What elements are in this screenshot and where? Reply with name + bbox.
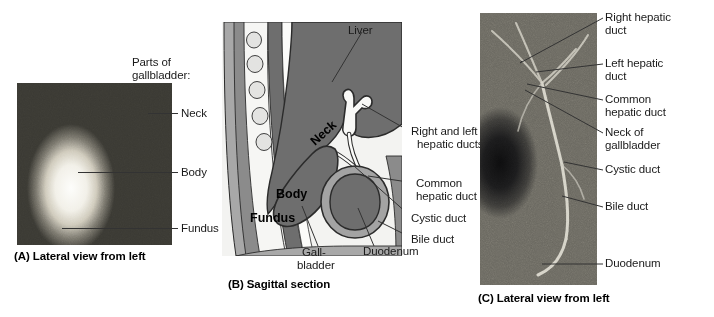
panel-b-inner-label-body: Body xyxy=(276,187,307,201)
panel-b-label-duodenum: Duodenum xyxy=(363,245,418,258)
panel-c-label-right-hepatic-duct-line2: duct xyxy=(605,24,626,37)
panel-c-label-neck-of-gallbladder-line1: Neck of xyxy=(605,126,643,139)
panel-c-label-left-hepatic-duct-line1: Left hepatic xyxy=(605,57,663,70)
panel-c-label-duodenum: Duodenum xyxy=(605,257,660,270)
panel-b-label-right-left-hepatic-ducts-line1: Right and left xyxy=(411,125,477,138)
panel-c-label-common-hepatic-duct-line1: Common xyxy=(605,93,651,106)
panel-b-label-gallbladder-line1: Gall- xyxy=(302,246,326,259)
panel-c-label-bile-duct: Bile duct xyxy=(605,200,648,213)
panel-b-label-common-hepatic-duct-line1: Common xyxy=(416,177,462,190)
panel-c-label-common-hepatic-duct-line2: hepatic duct xyxy=(605,106,666,119)
panel-c-caption: (C) Lateral view from left xyxy=(478,292,610,304)
panel-b: Neck Body Fundus Liver Right and left he… xyxy=(0,0,470,317)
panel-b-label-liver: Liver xyxy=(348,24,372,37)
panel-b-inner-label-fundus: Fundus xyxy=(250,211,295,225)
panel-b-label-gallbladder-line2: bladder xyxy=(297,259,335,272)
panel-b-caption: (B) Sagittal section xyxy=(228,278,330,290)
panel-c-label-left-hepatic-duct-line2: duct xyxy=(605,70,626,83)
panel-b-sagittal-diagram: Neck Body Fundus xyxy=(222,6,402,274)
panel-c-label-cystic-duct: Cystic duct xyxy=(605,163,660,176)
panel-c: Right hepatic duct Left hepatic duct Com… xyxy=(470,0,714,317)
figure-root: Parts of gallbladder: Neck Body Fundus (… xyxy=(0,0,714,317)
panel-c-label-right-hepatic-duct-line1: Right hepatic xyxy=(605,11,671,24)
panel-c-label-neck-of-gallbladder-line2: gallbladder xyxy=(605,139,660,152)
panel-b-label-cystic-duct: Cystic duct xyxy=(411,212,466,225)
panel-b-label-common-hepatic-duct-line2: hepatic duct xyxy=(416,190,477,203)
panel-c-leader-lines xyxy=(470,0,714,317)
